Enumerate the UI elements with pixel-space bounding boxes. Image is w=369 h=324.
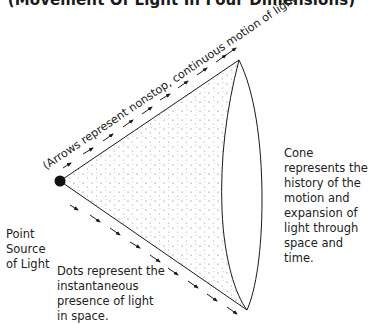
cone-label: Cone represents the history of the motio…	[284, 146, 369, 266]
point-source-dot	[55, 176, 66, 187]
dots-label: Dots represent the instantaneous presenc…	[57, 264, 167, 324]
point-source-label: Point Source of Light	[6, 227, 56, 272]
